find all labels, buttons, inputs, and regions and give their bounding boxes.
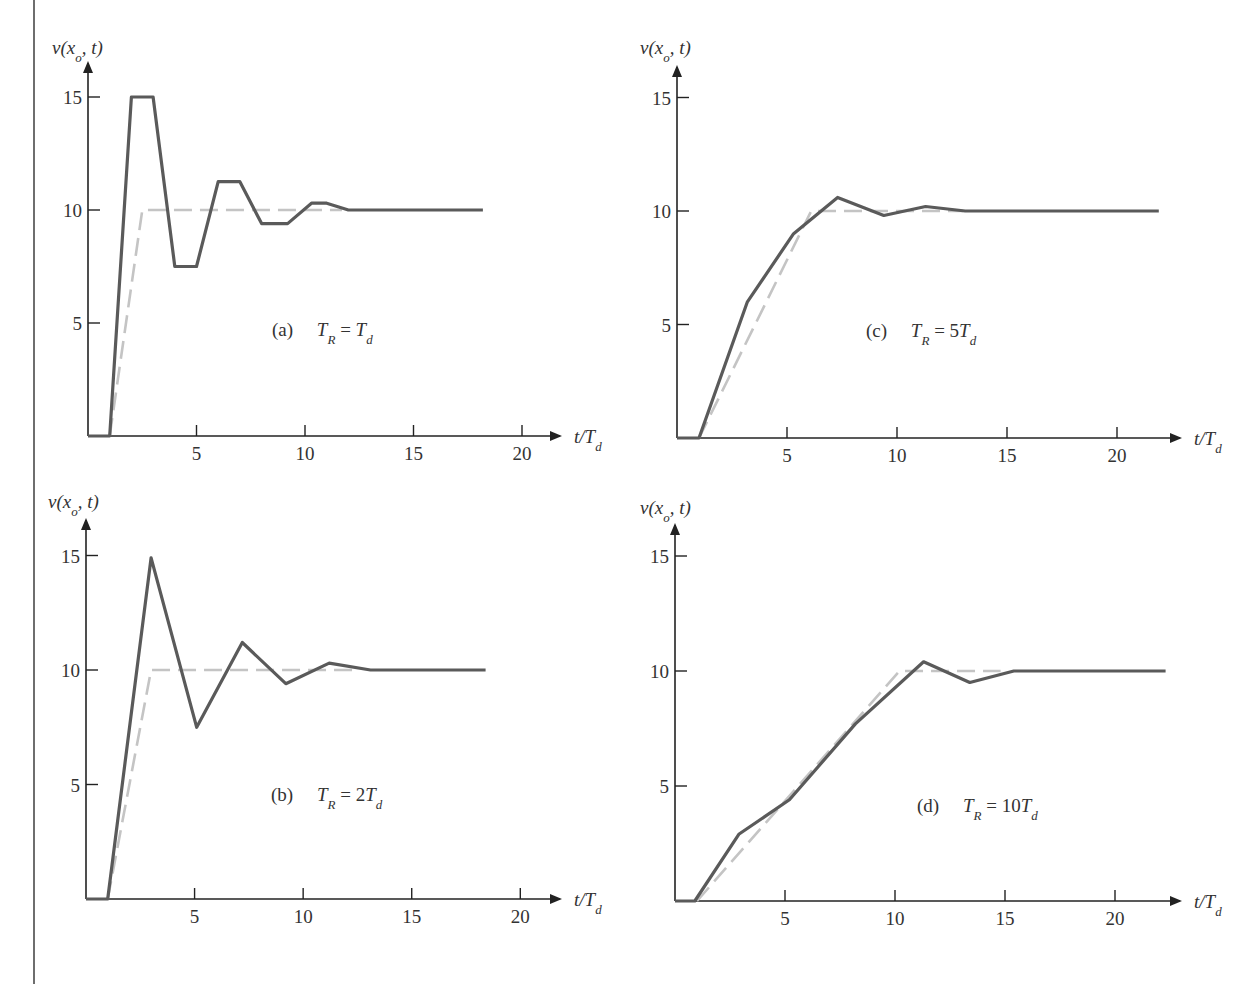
y-tick-label: 10 [63,200,82,221]
x-tick-label: 5 [192,443,202,464]
x-axis-label: t/Td [574,889,602,917]
y-axis-label: v(xo, t) [640,37,691,65]
response-line [86,558,486,899]
x-tick-label: 10 [888,445,907,466]
x-tick-label: 5 [782,445,792,466]
input-ramp-line [697,671,1001,901]
panel-condition-label: (a) TR = Td [272,319,373,347]
response-line [677,197,1159,438]
x-tick-label: 15 [996,908,1015,929]
y-tick-label: 10 [61,660,80,681]
x-tick-label: 15 [998,445,1017,466]
x-tick-label: 20 [1106,908,1125,929]
response-line [88,97,483,436]
y-tick-label: 5 [660,776,670,797]
y-axis-label: v(xo, t) [640,497,691,525]
panel-d: 510152051015v(xo, t)t/Td(d) TR = 10Td [640,497,1222,929]
panel-a: 510152051015v(xo, t)t/Td(a) TR = Td [52,37,602,464]
y-tick-label: 5 [71,775,81,796]
x-tick-label: 5 [780,908,790,929]
panel-condition-label: (c) TR = 5Td [866,320,977,348]
x-tick-label: 10 [886,908,905,929]
y-tick-label: 10 [652,201,671,222]
x-tick-label: 5 [190,906,200,927]
response-line [675,662,1166,901]
y-tick-label: 15 [61,546,80,567]
y-axis-label: v(xo, t) [48,491,99,519]
x-tick-label: 10 [294,906,313,927]
y-tick-label: 15 [63,87,82,108]
panel-condition-label: (b) TR = 2Td [271,784,383,812]
x-axis-label: t/Td [1194,891,1222,919]
y-tick-label: 15 [650,546,669,567]
x-axis-label: t/Td [574,426,602,454]
y-axis-label: v(xo, t) [52,37,103,65]
y-tick-label: 5 [662,315,672,336]
x-tick-label: 15 [402,906,421,927]
panel-c: 510152051015v(xo, t)t/Td(c) TR = 5Td [640,37,1222,466]
x-tick-label: 10 [296,443,315,464]
y-tick-label: 5 [73,313,83,334]
x-axis-label: t/Td [1194,428,1222,456]
panel-condition-label: (d) TR = 10Td [917,795,1038,823]
panel-b: 510152051015v(xo, t)t/Td(b) TR = 2Td [48,491,602,927]
y-tick-label: 15 [652,88,671,109]
x-tick-label: 20 [1108,445,1127,466]
response-figure: 510152051015v(xo, t)t/Td(a) TR = Td51015… [0,0,1257,984]
x-tick-label: 15 [404,443,423,464]
y-tick-label: 10 [650,661,669,682]
x-tick-label: 20 [513,443,532,464]
x-tick-label: 20 [511,906,530,927]
